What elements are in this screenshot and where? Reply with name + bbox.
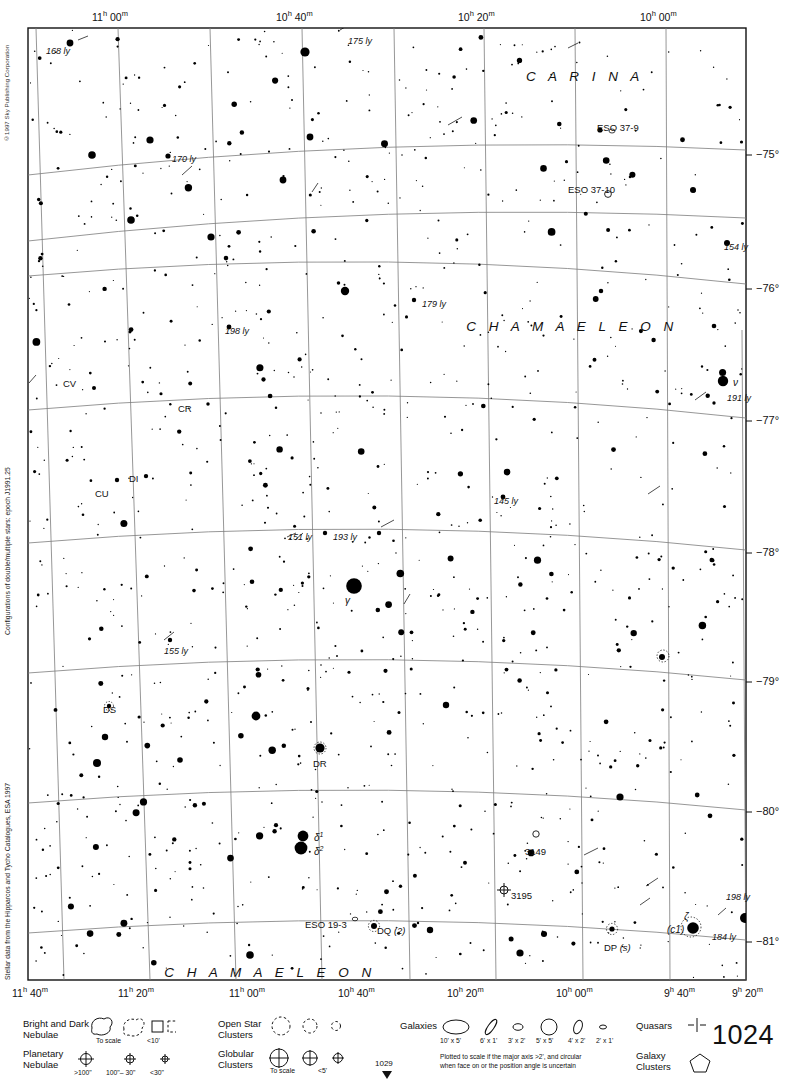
legend-bd-line1: Bright and Dark [23, 1018, 89, 1029]
bayer-label-2: δ1 [314, 831, 323, 843]
variable-star-label-dp: DP (s) [604, 943, 631, 953]
constellation-label-0: C A R I N A [526, 70, 644, 84]
dec-tick-1: −76° [756, 283, 779, 294]
distance-label-8: 151 ly [288, 533, 312, 542]
dec-tick-6: −81° [756, 936, 779, 947]
dec-tick-0: −75° [756, 149, 779, 160]
ra-tick-top-1: 10h 40m [276, 10, 313, 22]
side-note-configurations: Configurations of double/multiple stars:… [5, 420, 12, 635]
distance-label-0: 168 ly [46, 47, 70, 56]
ra-tick-bottom-4: 10h 20m [447, 986, 484, 998]
distance-label-9: 193 ly [333, 533, 357, 542]
dec-tick-3: −78° [756, 547, 779, 558]
legend-bright-dark-nebulae-label: Bright and Dark Nebulae [23, 1018, 89, 1040]
legend-quasars-label: Quasars [636, 1020, 672, 1031]
legend-galaxy-size-4: 4' x 2' [568, 1038, 585, 1045]
legend-galaxy-size-0: 10' x 5' [440, 1038, 461, 1045]
variable-star-label-di: DI [129, 474, 139, 484]
legend-planetary-nebulae-label: Planetary Nebulae [23, 1048, 63, 1070]
quasar-symbol-icon [686, 1016, 708, 1034]
legend-pn-lt30: <30" [150, 1070, 164, 1077]
legend-globular-clusters-label: Globular Clusters [218, 1048, 254, 1070]
galaxy-symbols-icon [440, 1014, 620, 1038]
distance-label-11: 198 ly [726, 893, 750, 902]
distance-label-12: 184 ly [712, 933, 736, 942]
legend-pn-line1: Planetary [23, 1048, 63, 1059]
variable-star-label-cv: CV [63, 379, 76, 389]
legend-gc-line1: Globular [218, 1048, 254, 1059]
dso-label-eso-37-9: ESO 37-9 [597, 123, 639, 133]
ra-tick-bottom-0: 11h 40m [12, 986, 48, 998]
distance-label-4: 179 ly [422, 300, 446, 309]
legend-oc-line1: Open Star [218, 1018, 261, 1029]
galaxy-cluster-symbol-icon [688, 1052, 714, 1074]
legend-nebula-to-scale: To scale [96, 1038, 121, 1045]
legend-open-clusters-label: Open Star Clusters [218, 1018, 261, 1040]
copyright-notice: ©1997 Sky Publishing Corporation [4, 32, 10, 142]
dso-label-eso-37-10: ESO 37-10 [568, 185, 615, 195]
legend-bd-line2: Nebulae [23, 1029, 58, 1040]
legend-galaxy-clusters-label: Galaxy Clusters [636, 1050, 671, 1072]
ra-tick-bottom-6: 9h 40m [664, 986, 695, 998]
legend-panel: Bright and Dark Nebulae To scale <10' Pl… [0, 1000, 795, 1085]
open-cluster-symbols-icon [268, 1014, 354, 1038]
distance-label-2: 170 ly [172, 155, 196, 164]
legend-galaxy-note2: when face on or the position angle is un… [440, 1062, 576, 1069]
variable-star-label-cr: CR [178, 404, 192, 414]
variable-star-label-ds: DS [103, 705, 116, 715]
legend-gc-line2: Clusters [218, 1059, 253, 1070]
variable-star-label-cu: CU [95, 489, 109, 499]
dec-tick-5: −80° [756, 806, 779, 817]
dso-label-3149: 3149 [525, 847, 546, 857]
bayer-label-5: (c1) [667, 925, 684, 935]
legend-pn-line2: Nebulae [23, 1059, 58, 1070]
map-frame [28, 28, 746, 980]
ra-tick-top-2: 10h 20m [458, 10, 495, 22]
legend-pn-gt100: >100" [74, 1070, 92, 1077]
distance-label-6: 191 ly [727, 394, 751, 403]
legend-galaxy-size-3: 5' x 5' [536, 1038, 553, 1045]
legend-gc-to-scale: To scale [270, 1068, 295, 1075]
bayer-label-0: ν [733, 378, 738, 388]
dec-tick-marks [746, 155, 752, 942]
ra-tick-bottom-3: 10h 40m [338, 986, 375, 998]
legend-galaxy-note1: Plotted to scale if the major axis >2', … [440, 1053, 581, 1060]
ra-tick-bottom-2: 11h 00m [229, 986, 265, 998]
ra-tick-top-0: 11h 00m [92, 10, 128, 22]
dso-label-eso-19-3: ESO 19-3 [305, 920, 347, 930]
side-note-stellar-data: Stellar data from the Hipparcos and Tych… [5, 790, 12, 980]
constellation-label-1: C H A M A E L E O N [466, 320, 678, 334]
planetary-nebula-symbols-icon [72, 1048, 180, 1070]
variable-star-label-dq: DQ (2) [377, 926, 406, 936]
variable-star-label-dr: DR [313, 759, 327, 769]
bayer-label-4: ζ [684, 912, 689, 922]
ra-tick-bottom-7: 9h 20m [732, 986, 763, 998]
distance-label-7: 145 ly [494, 497, 518, 506]
legend-galaxy-size-2: 3' x 2' [508, 1038, 525, 1045]
star-chart-page: 11h 00m10h 40m10h 20m10h 00m 11h 40m11h … [0, 0, 795, 1085]
distance-label-3: 154 ly [724, 243, 748, 252]
dec-tick-2: −77° [756, 415, 779, 426]
distance-label-1: 175 ly [348, 37, 372, 46]
distance-label-10: 155 ly [164, 647, 188, 656]
legend-galaxies-label: Galaxies [400, 1020, 437, 1031]
legend-nebula-lt10: <10' [147, 1038, 160, 1045]
legend-pn-mid: 100"– 30" [106, 1070, 135, 1077]
legend-galaxy-size-1: 6' x 1' [480, 1038, 497, 1045]
sky-map-canvas [0, 0, 795, 1085]
dec-tick-4: −79° [756, 676, 779, 687]
legend-oc-line2: Clusters [218, 1029, 253, 1040]
ra-tick-bottom-1: 11h 20m [118, 986, 154, 998]
distance-label-5: 198 ly [225, 327, 249, 336]
dso-label-3195: 3195 [511, 891, 532, 901]
ra-tick-top-3: 10h 00m [640, 10, 677, 22]
bayer-label-3: δ2 [314, 845, 323, 857]
legend-galaxy-size-5: 2' x 1' [596, 1038, 613, 1045]
legend-gcl-line2: Clusters [636, 1061, 671, 1072]
legend-galaxy-note: Plotted to scale if the major axis >2', … [440, 1052, 581, 1070]
legend-gcl-line1: Galaxy [636, 1050, 666, 1061]
bayer-label-1: γ [345, 596, 350, 606]
legend-gc-lt5: <5' [318, 1068, 327, 1075]
constellation-label-2: C H A M A E L E O N [164, 966, 376, 980]
ra-tick-bottom-5: 10h 00m [556, 986, 593, 998]
